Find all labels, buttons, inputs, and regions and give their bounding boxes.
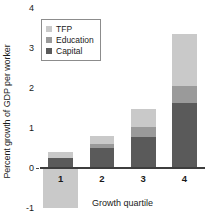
bar-segment-capital [172,103,197,168]
bar-segment-education [172,86,197,103]
y-tick-label: 1 [16,124,34,133]
bar-segment-tfp [90,136,115,144]
bar-segment-capital [90,148,115,168]
legend-item-label: Capital [56,47,82,56]
x-tick-label: 1 [40,174,81,184]
y-tick-label: 0 [16,164,34,173]
bar-segment-tfp [131,109,156,127]
stacked-bar-chart: Percent growth of GDP per worker 43210-1… [0,0,211,223]
bar-segment-education [90,144,115,148]
chart-legend: TFPEducationCapital [41,19,101,61]
y-axis-title: Percent growth of GDP per worker [0,0,14,223]
x-tick-label: 4 [164,174,205,184]
bar-segment-tfp [172,34,197,87]
x-axis-title: Growth quartile [40,198,205,208]
legend-swatch-icon [46,48,52,54]
x-tick-label: 2 [81,174,122,184]
y-tick-label: 3 [16,44,34,53]
bar-segment-capital [131,137,156,168]
legend-swatch-icon [46,37,52,43]
legend-swatch-icon [46,26,52,32]
zero-baseline [40,167,205,169]
y-tick-label: 2 [16,84,34,93]
legend-item-tfp: TFP [46,24,94,34]
bar-segment-education [131,127,156,137]
legend-item-label: Education [56,36,94,45]
legend-item-label: TFP [56,25,72,34]
y-tick-mark [36,168,39,169]
y-tick-label: -1 [16,204,34,213]
legend-item-capital: Capital [46,46,94,56]
y-tick-label: 4 [16,4,34,13]
bar-segment-tfp [48,152,73,158]
legend-item-education: Education [46,35,94,45]
x-tick-label: 3 [123,174,164,184]
